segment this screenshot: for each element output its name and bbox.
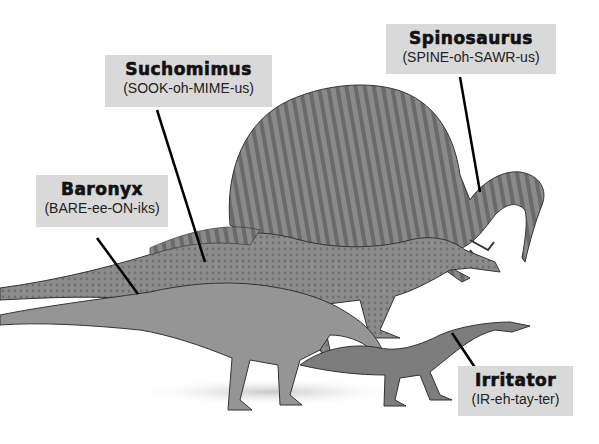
spinosaurus-pronunciation: (SPINE-oh-SAWR-us) (392, 48, 550, 66)
spinosaurus-label: Spinosaurus (SPINE-oh-SAWR-us) (386, 24, 556, 74)
spinosaurus-leader (460, 77, 480, 192)
baronyx-name: Baronyx (42, 179, 162, 199)
ground-shadow (130, 378, 410, 406)
suchomimus-label: Suchomimus (SOOK-oh-MIME-us) (105, 55, 272, 107)
baronyx-label: Baronyx (BARE-ee-ON-iks) (36, 175, 168, 227)
irritator-label: Irritator (IR-eh-tay-ter) (458, 366, 573, 416)
irritator-pronunciation: (IR-eh-tay-ter) (464, 390, 567, 408)
irritator-name: Irritator (464, 370, 567, 390)
baronyx-pronunciation: (BARE-ee-ON-iks) (42, 199, 162, 217)
suchomimus-name: Suchomimus (111, 59, 266, 79)
suchomimus-pronunciation: (SOOK-oh-MIME-us) (111, 79, 266, 97)
spinosaurus-name: Spinosaurus (392, 28, 550, 48)
